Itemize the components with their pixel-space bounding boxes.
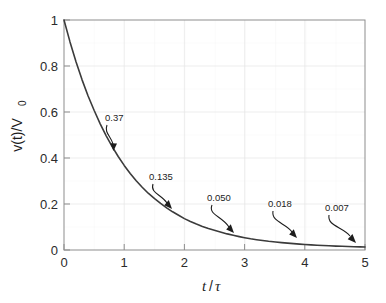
y-tick-label-0-2: 0.2	[40, 197, 58, 212]
y-tick-label-0-8: 0.8	[40, 59, 58, 74]
x-axis-title: t / τ	[202, 278, 221, 294]
x-tick-label-3: 3	[241, 255, 248, 270]
x-axis-title-slash: /	[209, 278, 213, 294]
x-tick-label-1: 1	[121, 255, 128, 270]
y-tick-label-1: 1	[51, 13, 58, 28]
x-axis-title-denominator: τ	[215, 278, 221, 294]
y-tick-label-0-4: 0.4	[40, 151, 58, 166]
y-axis-title-main: v(t)/V	[9, 118, 25, 152]
x-tick-label-5: 5	[361, 255, 368, 270]
figure-canvas: 0 1 2 3 4 5 0 0.2 0.4 0.6 0.8 1 v(t)/V 0…	[0, 0, 386, 303]
annotation-label-0-050: 0.050	[207, 192, 231, 203]
y-tick-label-0: 0	[51, 243, 58, 258]
x-tick-label-2: 2	[181, 255, 188, 270]
x-tick-label-0: 0	[60, 255, 67, 270]
annotation-label-0-018: 0.018	[268, 198, 292, 209]
decay-chart: 0 1 2 3 4 5 0 0.2 0.4 0.6 0.8 1 v(t)/V 0…	[0, 0, 386, 303]
y-axis-title-subscript: 0	[17, 100, 28, 106]
annotation-label-0-007: 0.007	[325, 202, 349, 213]
annotation-label-0-135: 0.135	[149, 171, 173, 182]
annotation-label-0-37: 0.37	[105, 112, 124, 123]
x-tick-label-4: 4	[301, 255, 308, 270]
y-tick-label-0-6: 0.6	[40, 105, 58, 120]
